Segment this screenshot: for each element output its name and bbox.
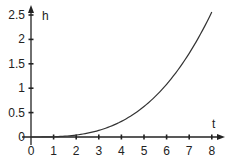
- x-tick-label: 0: [28, 144, 35, 158]
- x-tick-label: 8: [208, 144, 215, 158]
- axes: [22, 5, 225, 145]
- x-tick-label: 5: [141, 144, 148, 158]
- y-axis-arrow-icon: [28, 5, 34, 13]
- x-tick-label: 6: [163, 144, 170, 158]
- chart: 01234567800.511.522.5ht: [0, 0, 233, 160]
- y-tick-label: 1: [18, 81, 25, 95]
- x-tick-label: 7: [186, 144, 193, 158]
- x-tick-label: 1: [50, 144, 57, 158]
- x-tick-label: 3: [95, 144, 102, 158]
- y-tick-label: 2.5: [8, 8, 25, 22]
- curve: [31, 12, 212, 137]
- y-tick-label: 2: [18, 32, 25, 46]
- x-axis-arrow-icon: [217, 134, 225, 140]
- y-tick-label: 0: [18, 130, 25, 144]
- y-axis-label: h: [42, 9, 49, 23]
- x-tick-label: 4: [118, 144, 125, 158]
- data-curve: [31, 12, 212, 137]
- y-tick-label: 1.5: [8, 57, 25, 71]
- labels: 01234567800.511.522.5ht: [8, 8, 216, 158]
- x-tick-label: 2: [73, 144, 80, 158]
- x-axis-label: t: [212, 117, 216, 131]
- y-tick-label: 0.5: [8, 106, 25, 120]
